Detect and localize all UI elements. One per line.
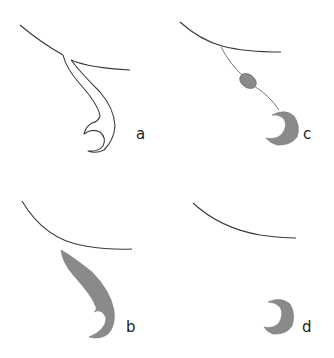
diagram-canvas	[0, 0, 334, 358]
crescent-c	[266, 112, 298, 145]
panel-d	[193, 203, 296, 334]
panel-b	[22, 201, 132, 338]
outlined-hook-stalk	[63, 55, 115, 152]
panel-label-a: a	[136, 127, 145, 142]
surface-curve-a	[20, 25, 63, 55]
panel-a	[20, 25, 130, 152]
crescent-d	[264, 299, 294, 334]
surface-curve-d	[193, 203, 296, 238]
surface-curve-c	[180, 22, 281, 52]
panel-label-c: c	[303, 127, 311, 142]
filled-hook-stalk	[61, 250, 114, 338]
panel-c	[180, 22, 298, 145]
panel-label-b: b	[126, 320, 136, 335]
surface-curve-a-right	[71, 60, 130, 70]
panel-label-d: d	[302, 320, 312, 335]
surface-curve-b	[22, 201, 132, 249]
